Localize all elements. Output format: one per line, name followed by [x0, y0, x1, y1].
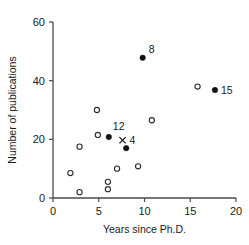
data-point-filled-1-3	[212, 87, 217, 92]
y-tick-label-40: 40	[33, 75, 45, 87]
data-point-annotation-12: 12	[113, 120, 125, 132]
data-point-open-0-1	[77, 144, 82, 149]
y-tick-label-20: 20	[33, 133, 45, 145]
data-point-annotation-4: 4	[130, 134, 136, 146]
data-point-open-0-10	[195, 84, 200, 89]
plot-canvas: 020406005101520Years since Ph.D.Number o…	[0, 0, 249, 245]
y-axis-label: Number of publications	[6, 56, 18, 163]
data-point-open-0-8	[135, 164, 140, 169]
data-point-open-0-7	[114, 166, 119, 171]
x-tick-label-5: 5	[96, 205, 102, 217]
y-tick-label-0: 0	[39, 192, 45, 204]
data-point-open-0-3	[94, 107, 99, 112]
data-point-filled-1-0	[106, 134, 111, 139]
data-point-open-0-0	[68, 170, 73, 175]
x-tick-label-20: 20	[230, 205, 242, 217]
data-point-filled-1-1	[124, 145, 129, 150]
data-point-annotation-8: 8	[149, 43, 155, 55]
y-tick-label-60: 60	[33, 16, 45, 28]
data-point-open-0-5	[105, 179, 110, 184]
data-point-open-0-9	[149, 118, 154, 123]
x-tick-label-0: 0	[50, 205, 56, 217]
data-point-open-0-4	[95, 132, 100, 137]
data-point-annotation-15: 15	[221, 84, 233, 96]
data-point-open-0-6	[105, 187, 110, 192]
x-tick-label-10: 10	[138, 205, 150, 217]
data-point-filled-1-2	[140, 55, 145, 60]
scatter-plot-figure: 020406005101520Years since Ph.D.Number o…	[0, 0, 249, 245]
x-tick-label-15: 15	[184, 205, 196, 217]
x-axis-label: Years since Ph.D.	[103, 223, 186, 235]
data-point-open-0-2	[77, 190, 82, 195]
